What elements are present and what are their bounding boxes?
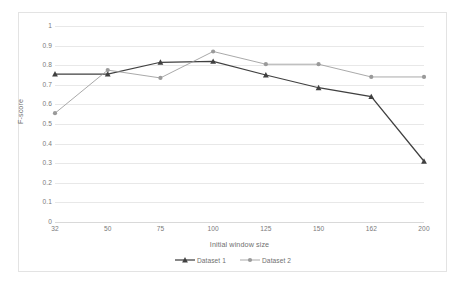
y-axis-tick-label: 1 bbox=[22, 23, 52, 30]
y-axis-tick-label: 0.2 bbox=[22, 180, 52, 187]
data-point-marker bbox=[264, 62, 268, 66]
x-axis-title: Initial window size bbox=[55, 240, 424, 249]
data-point-marker bbox=[158, 76, 162, 80]
circle-marker-icon bbox=[240, 256, 260, 264]
x-axis-tick-label: 50 bbox=[104, 226, 112, 233]
data-point-marker bbox=[422, 75, 426, 79]
y-axis-title: F-score bbox=[16, 99, 25, 124]
plot-area bbox=[55, 26, 424, 222]
y-axis-tick-label: 0.7 bbox=[22, 82, 52, 89]
data-point-marker bbox=[211, 49, 215, 53]
data-point-marker bbox=[369, 75, 373, 79]
legend-item-1[interactable]: Dataset 1 bbox=[175, 256, 226, 264]
x-axis-tick-label: 75 bbox=[157, 226, 165, 233]
x-axis-tick-label: 150 bbox=[313, 226, 324, 233]
y-axis-tick-label: 0.6 bbox=[22, 101, 52, 108]
y-axis-tick-label: 0.5 bbox=[22, 121, 52, 128]
y-axis-tick-label: 0.8 bbox=[22, 62, 52, 69]
y-axis-tick-label: 0 bbox=[22, 219, 52, 226]
y-axis-tick-label: 0.9 bbox=[22, 42, 52, 49]
x-axis-tick-label: 200 bbox=[418, 226, 429, 233]
y-axis-tick-labels: 00.10.20.30.40.50.60.70.80.91 bbox=[18, 26, 52, 222]
x-axis-tick-label: 125 bbox=[260, 226, 271, 233]
x-axis-tick-label: 100 bbox=[207, 226, 218, 233]
series-layer bbox=[55, 26, 424, 222]
y-axis-tick-label: 0.4 bbox=[22, 140, 52, 147]
x-axis-tick-labels: 325075100125150162200 bbox=[55, 226, 424, 238]
series-1 bbox=[52, 58, 427, 163]
data-point-marker bbox=[316, 62, 320, 66]
triangle-marker-icon bbox=[175, 256, 195, 264]
legend-item-2[interactable]: Dataset 2 bbox=[240, 256, 291, 264]
data-point-marker bbox=[106, 68, 110, 72]
series-2 bbox=[53, 49, 426, 115]
y-axis-tick-label: 0.1 bbox=[22, 199, 52, 206]
data-point-marker bbox=[53, 111, 57, 115]
y-axis-tick-label: 0.3 bbox=[22, 160, 52, 167]
legend-item-label: Dataset 1 bbox=[197, 257, 226, 264]
x-axis-tick-label: 32 bbox=[51, 226, 59, 233]
legend-item-label: Dataset 2 bbox=[262, 257, 291, 264]
x-axis-tick-label: 162 bbox=[366, 226, 377, 233]
gridline bbox=[55, 222, 424, 223]
chart-legend: Dataset 1Dataset 2 bbox=[0, 256, 466, 264]
series-line bbox=[55, 51, 424, 113]
